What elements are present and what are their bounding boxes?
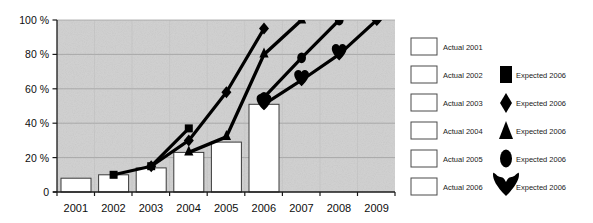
legend-label: Expected 2006 bbox=[516, 127, 566, 136]
legend-item-actual-2001[interactable]: Actual 2001 bbox=[411, 38, 483, 55]
circle-marker-icon bbox=[500, 150, 512, 168]
legend-item-actual-2006[interactable]: Actual 2006 bbox=[411, 178, 483, 195]
bar-2004 bbox=[174, 152, 204, 192]
legend-label: Actual 2004 bbox=[443, 127, 483, 136]
legend-label: Actual 2005 bbox=[443, 155, 483, 164]
marker-square bbox=[110, 171, 118, 179]
y-tick-label: 40 % bbox=[25, 117, 49, 129]
legend-label: Expected 2006 bbox=[516, 71, 566, 80]
x-tick-label: 2008 bbox=[327, 202, 351, 214]
x-tick-label: 2003 bbox=[139, 202, 163, 214]
x-tick-labels: 2001 2002 2003 2004 2005 2006 2007 2008 … bbox=[64, 202, 389, 214]
legend-label: Actual 2003 bbox=[443, 99, 483, 108]
x-tick-label: 2004 bbox=[176, 202, 200, 214]
bar-2005 bbox=[211, 142, 241, 192]
legend-swatch-box bbox=[411, 178, 437, 195]
x-tick-label: 2001 bbox=[64, 202, 88, 214]
triangle-marker-icon bbox=[499, 121, 513, 139]
marker-square bbox=[185, 124, 193, 132]
legend-item-expected-triangle[interactable]: Expected 2006 bbox=[499, 121, 566, 139]
legend-label: Expected 2006 bbox=[516, 155, 566, 164]
x-tick-label: 2007 bbox=[289, 202, 313, 214]
marker-circle bbox=[297, 52, 306, 63]
legend-swatch-box bbox=[411, 66, 437, 83]
marker-triangle bbox=[297, 14, 306, 24]
bar-2006 bbox=[249, 104, 279, 192]
y-tick-marks bbox=[53, 20, 58, 192]
legend-swatch-box bbox=[411, 150, 437, 167]
legend-item-actual-2002[interactable]: Actual 2002 bbox=[411, 66, 483, 83]
chart-figure: 100 % 80 % 60 % 40 % 20 % 0 2001 2002 20… bbox=[0, 0, 593, 223]
legend-item-expected-circle[interactable]: Expected 2006 bbox=[500, 150, 566, 168]
x-tick-label: 2009 bbox=[364, 202, 388, 214]
diamond-marker-icon bbox=[500, 93, 512, 113]
marker-circle bbox=[335, 15, 344, 26]
y-tick-label: 20 % bbox=[25, 152, 49, 164]
legend-item-actual-2004[interactable]: Actual 2004 bbox=[411, 122, 483, 139]
y-tick-label: 80 % bbox=[25, 48, 49, 60]
square-marker-icon bbox=[500, 66, 512, 83]
chart-container: 100 % 80 % 60 % 40 % 20 % 0 2001 2002 20… bbox=[0, 0, 593, 223]
legend-item-expected-square[interactable]: Expected 2006 bbox=[500, 66, 566, 83]
legend-label: Expected 2006 bbox=[516, 99, 566, 108]
legend-swatch-box bbox=[411, 94, 437, 111]
legend-item-expected-diamond[interactable]: Expected 2006 bbox=[500, 93, 566, 113]
legend-column-expected: Expected 2006 Expected 2006 Expected 200… bbox=[493, 66, 566, 196]
legend-item-actual-2005[interactable]: Actual 2005 bbox=[411, 150, 483, 167]
legend-item-expected-heart[interactable]: Expected 2006 bbox=[493, 173, 566, 196]
legend: Actual 2001 Actual 2002 Actual 2003 Actu… bbox=[411, 38, 566, 196]
legend-swatch-box bbox=[411, 38, 437, 55]
y-tick-label: 60 % bbox=[25, 83, 49, 95]
y-tick-labels: 100 % 80 % 60 % 40 % 20 % 0 bbox=[19, 14, 49, 198]
legend-label: Expected 2006 bbox=[516, 183, 566, 192]
x-tick-label: 2006 bbox=[252, 202, 276, 214]
legend-item-actual-2003[interactable]: Actual 2003 bbox=[411, 94, 483, 111]
legend-swatch-box bbox=[411, 122, 437, 139]
x-tick-label: 2002 bbox=[101, 202, 125, 214]
y-tick-label: 100 % bbox=[19, 14, 49, 26]
legend-column-actual: Actual 2001 Actual 2002 Actual 2003 Actu… bbox=[411, 38, 483, 195]
x-tick-label: 2005 bbox=[214, 202, 238, 214]
bar-2001 bbox=[61, 178, 91, 192]
y-tick-label: 0 bbox=[43, 186, 49, 198]
legend-label: Actual 2001 bbox=[443, 43, 483, 52]
legend-label: Actual 2006 bbox=[443, 183, 483, 192]
legend-label: Actual 2002 bbox=[443, 71, 483, 80]
